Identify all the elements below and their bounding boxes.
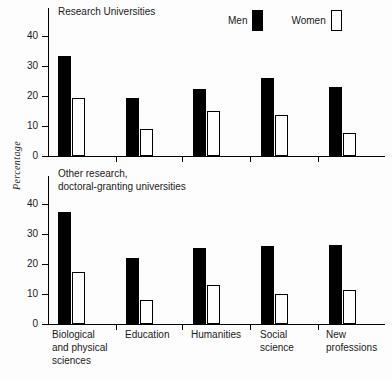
x-tick-2-top: [182, 157, 183, 162]
bar-men-social-bottom: [261, 246, 274, 324]
x-label-social: Social science: [260, 328, 294, 354]
x-label-humanities: Humanities: [191, 328, 241, 341]
panel-title-bottom: Other research, doctoral-granting univer…: [58, 168, 186, 193]
bar-women-education-top: [140, 129, 153, 156]
chart-legend: Men Women: [228, 10, 342, 31]
legend-swatch-women-icon: [331, 10, 342, 31]
x-label-newprof: New professions: [326, 328, 377, 354]
bar-men-newprof-top: [329, 87, 342, 156]
y-tick-20-top: [42, 96, 48, 97]
y-ticklabel-40-top: 40: [14, 31, 38, 41]
x-axis-line-bottom: [48, 324, 385, 325]
y-ticklabel-10-bottom: 10: [14, 289, 38, 299]
legend-label-men: Men: [228, 15, 247, 26]
x-label-education: Education: [125, 328, 169, 341]
legend-swatch-men-icon: [252, 10, 263, 31]
bar-men-biological-top: [58, 56, 71, 157]
y-ticklabel-40-bottom: 40: [14, 199, 38, 209]
x-tick-3-top: [250, 157, 251, 162]
panel-other-research: Other research, doctoral-granting univer…: [0, 168, 392, 328]
y-ticklabel-10-top: 10: [14, 121, 38, 131]
y-tick-30-top: [42, 66, 48, 67]
y-ticklabel-20-bottom: 20: [14, 259, 38, 269]
x-axis-category-labels: Biological and physical sciences Educati…: [48, 328, 388, 378]
bar-women-biological-top: [72, 98, 85, 156]
y-tick-30-bottom: [42, 234, 48, 235]
x-axis-line-top: [48, 156, 385, 157]
bar-women-biological-bottom: [72, 272, 85, 324]
panel-title-top: Research Universities: [58, 6, 155, 19]
y-tick-40-top: [42, 36, 48, 37]
legend-label-women: Women: [291, 15, 325, 26]
x-tick-4-top: [318, 157, 319, 162]
x-label-biological: Biological and physical sciences: [52, 328, 108, 367]
bar-women-newprof-top: [343, 133, 356, 156]
chart-figure: Percentage Research Universities Men Wom…: [0, 0, 392, 380]
bar-women-social-top: [275, 115, 288, 156]
bar-men-humanities-bottom: [193, 248, 206, 325]
bar-men-newprof-bottom: [329, 245, 342, 324]
y-ticklabel-30-bottom: 30: [14, 229, 38, 239]
y-tick-10-top: [42, 126, 48, 127]
y-tick-20-bottom: [42, 264, 48, 265]
bar-men-humanities-top: [193, 89, 206, 156]
x-tick-1-top: [116, 157, 117, 162]
legend-item-women: Women: [291, 10, 341, 31]
bar-women-humanities-bottom: [207, 285, 220, 324]
bar-women-social-bottom: [275, 294, 288, 324]
panel-research-universities: Research Universities Men Women 0 10 20 …: [0, 0, 392, 165]
bar-men-social-top: [261, 78, 274, 156]
y-ticklabel-0-top: 0: [14, 151, 38, 161]
bar-women-humanities-top: [207, 111, 220, 156]
bar-women-newprof-bottom: [343, 290, 356, 325]
y-tick-40-bottom: [42, 204, 48, 205]
y-tick-0-top: [42, 156, 48, 157]
bar-women-education-bottom: [140, 300, 153, 324]
y-ticklabel-0-bottom: 0: [14, 319, 38, 329]
bar-men-education-top: [126, 98, 139, 156]
y-ticklabel-30-top: 30: [14, 61, 38, 71]
legend-item-men: Men: [228, 10, 263, 31]
y-ticklabel-20-top: 20: [14, 91, 38, 101]
bar-men-education-bottom: [126, 258, 139, 324]
y-tick-10-bottom: [42, 294, 48, 295]
y-tick-0-bottom: [42, 324, 48, 325]
y-axis-line-bottom: [48, 176, 49, 324]
bar-men-biological-bottom: [58, 212, 71, 325]
y-axis-line-top: [48, 8, 49, 156]
